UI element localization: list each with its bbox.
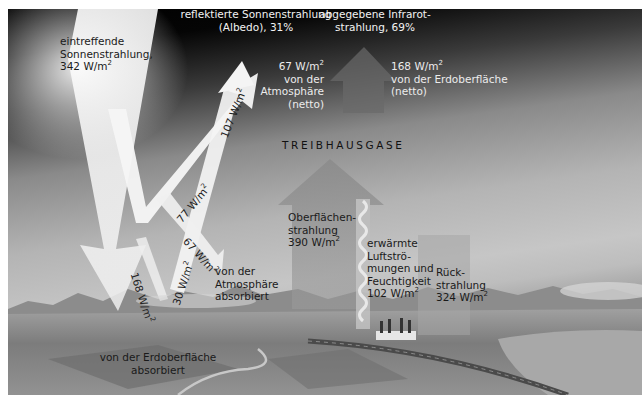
back-radiation-value: 324 W/m2 xyxy=(436,291,488,304)
reflected-line2: (Albedo), 31% xyxy=(176,21,336,34)
greenhouse-gases-title: TREIBHAUSGASE xyxy=(282,139,405,151)
surface-radiation-label: Oberflächen- strahlung 390 W/m2 xyxy=(288,211,356,249)
incoming-line1: eintreffende xyxy=(60,35,153,48)
thermals-label: erwärmte Luftströ- mungen und Feuchtigke… xyxy=(367,237,434,300)
atm-net-value: 67 W/m2 xyxy=(256,60,324,73)
atmosphere-net-label: 67 W/m2 von der Atmosphäre (netto) xyxy=(256,60,324,110)
surf-net-line3: (netto) xyxy=(391,85,508,98)
emitted-ir-line2: strahlung, 69% xyxy=(315,21,435,34)
surface-absorbed-label: von der Erdoberfläche absorbiert xyxy=(88,351,228,376)
thermals-line4: Feuchtigkeit xyxy=(367,275,434,288)
reflected-line1: reflektierte Sonnenstrahlung xyxy=(176,9,336,21)
atm-net-line3: Atmosphäre xyxy=(256,85,324,98)
energy-balance-diagram: eintreffende Sonnenstrahlung, 342 W/m2 r… xyxy=(8,9,642,395)
thermals-line3: mungen und xyxy=(367,262,434,275)
back-radiation-line2: strahlung xyxy=(436,279,488,292)
atm-absorbed-line1: von der xyxy=(215,265,279,278)
incoming-value: 342 W/m2 xyxy=(60,60,153,73)
surface-radiation-value: 390 W/m2 xyxy=(288,236,356,249)
atm-absorbed-line2: Atmosphäre xyxy=(215,278,279,291)
atm-absorbed-line3: absorbiert xyxy=(215,290,279,303)
thermals-line2: Luftströ- xyxy=(367,250,434,263)
emitted-ir-label: abgegebene Infrarot- strahlung, 69% xyxy=(315,9,435,33)
thermals-line1: erwärmte xyxy=(367,237,434,250)
thermals-value: 102 W/m2 xyxy=(367,287,434,300)
surface-absorbed-line1: von der Erdoberfläche xyxy=(88,351,228,364)
back-radiation-line1: Rück- xyxy=(436,266,488,279)
atmosphere-absorbed-label: von der Atmosphäre absorbiert xyxy=(215,265,279,303)
back-radiation-label: Rück- strahlung 324 W/m2 xyxy=(436,266,488,304)
incoming-solar-label: eintreffende Sonnenstrahlung, 342 W/m2 xyxy=(60,35,153,73)
surf-net-value: 168 W/m2 xyxy=(391,60,508,73)
outgoing-ir-arrow xyxy=(330,47,396,113)
emitted-ir-line1: abgegebene Infrarot- xyxy=(315,9,435,21)
reflected-solar-label: reflektierte Sonnenstrahlung (Albedo), 3… xyxy=(176,9,336,33)
atm-net-line2: von der xyxy=(256,73,324,86)
surface-radiation-line1: Oberflächen- xyxy=(288,211,356,224)
surface-absorbed-line2: absorbiert xyxy=(88,364,228,377)
atm-net-line4: (netto) xyxy=(256,98,324,111)
surface-net-label: 168 W/m2 von der Erdoberfläche (netto) xyxy=(391,60,508,98)
incoming-line2: Sonnenstrahlung, xyxy=(60,48,153,61)
surf-net-line2: von der Erdoberfläche xyxy=(391,73,508,86)
surface-radiation-line2: strahlung xyxy=(288,224,356,237)
